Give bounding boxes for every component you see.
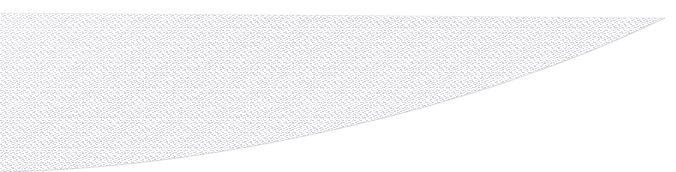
blade-illustration bbox=[0, 0, 676, 172]
scanned-image-canvas bbox=[0, 0, 676, 172]
blade-grain-layer bbox=[0, 0, 676, 172]
